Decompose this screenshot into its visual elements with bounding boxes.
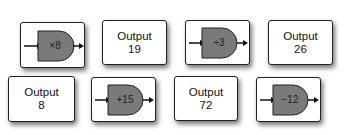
output-card-19[interactable]: Output 19	[102, 20, 167, 65]
operator-label: +15	[108, 94, 142, 105]
operator-card-minus-12[interactable]: −12	[256, 77, 321, 122]
output-card-8[interactable]: Output 8	[8, 76, 75, 122]
output-value: 72	[200, 99, 213, 112]
output-card-26[interactable]: Output 26	[268, 20, 333, 65]
output-value: 8	[38, 99, 44, 112]
operator-label: −12	[273, 94, 307, 105]
operator-card-plus-15[interactable]: +15	[91, 77, 156, 122]
operator-card-divide-3[interactable]: ÷3	[185, 20, 250, 65]
operator-label: ÷3	[202, 37, 236, 48]
output-card-72[interactable]: Output 72	[174, 76, 238, 121]
operator-card-times-8[interactable]: ×8	[20, 22, 85, 68]
output-value: 26	[294, 43, 307, 56]
operator-label: ×8	[38, 40, 72, 51]
output-label: Output	[283, 30, 318, 43]
output-value: 19	[128, 43, 141, 56]
output-label: Output	[24, 86, 59, 99]
output-label: Output	[189, 86, 224, 99]
output-label: Output	[117, 30, 152, 43]
